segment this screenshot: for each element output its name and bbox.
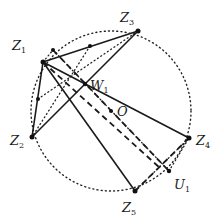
label-z1: Z1	[11, 38, 26, 55]
label-o: O	[117, 104, 128, 119]
point-near-z1	[51, 48, 55, 52]
label-z5: Z5	[121, 200, 136, 217]
point-u1	[167, 169, 171, 173]
point-o	[109, 109, 113, 113]
label-z2: Z2	[9, 133, 24, 150]
label-w1: W1	[90, 78, 108, 95]
point-w1	[83, 82, 87, 86]
label-z4: Z4	[195, 133, 210, 150]
geometry-diagram: Z1 Z2 Z3 Z4 Z5 W1 O U1	[0, 0, 218, 217]
dashed-lines	[43, 50, 189, 191]
point-z1	[41, 60, 46, 65]
label-z3: Z3	[119, 10, 134, 27]
point-z3	[136, 29, 141, 34]
point-z2	[30, 135, 35, 140]
point-z5	[133, 189, 138, 194]
label-u1: U1	[174, 177, 190, 194]
point-mid-z1z3	[88, 44, 92, 48]
point-z4	[187, 136, 192, 141]
point-mid-z1z2	[36, 97, 40, 101]
